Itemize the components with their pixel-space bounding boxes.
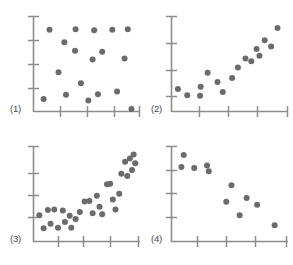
data-point [122,56,128,62]
data-point [72,48,78,54]
data-point [175,86,181,92]
data-point [51,207,57,213]
data-point [91,27,97,33]
data-point [254,202,260,208]
data-point [197,93,203,99]
data-point [235,65,241,71]
data-point [113,207,119,213]
data-point [99,49,105,55]
data-point [45,207,51,213]
scatter-panel-4: (4) [146,132,293,265]
data-point [94,193,100,199]
data-point [41,225,47,231]
data-point [110,196,116,202]
data-points-4 [178,152,277,228]
data-point [107,181,113,187]
data-point [184,92,190,98]
data-point [237,212,243,218]
data-point [256,53,262,59]
data-point [275,25,281,31]
data-points-3 [36,152,138,232]
data-point [124,173,130,179]
data-point [272,222,278,228]
axes-4 [166,146,288,247]
data-point [90,56,96,62]
scatter-panel-3: (3) [0,132,146,265]
data-point [62,219,68,225]
data-point [60,207,66,213]
data-point [131,152,137,158]
data-point [116,191,122,197]
data-point [55,225,61,231]
data-point [262,37,268,43]
data-point [61,39,67,45]
data-point [77,209,83,215]
axes-1 [28,16,140,117]
data-point [181,152,187,158]
scatter-plot-3-canvas [0,132,146,265]
data-point [67,213,73,219]
data-point [215,79,221,85]
data-point [229,75,235,81]
data-point [73,26,79,32]
data-point [268,44,274,50]
data-point [242,56,248,62]
data-point [114,88,120,94]
data-point [99,211,105,217]
scatter-plot-1-canvas [0,0,146,132]
scatterplot-figure: (1) (2) [0,0,293,265]
data-point [95,91,101,97]
data-point [90,210,96,216]
data-points-1 [41,26,135,112]
data-point [68,225,74,231]
data-point [206,168,212,174]
data-point [36,212,42,218]
panel-label-3: (3) [10,234,21,244]
panel-label-1: (1) [10,104,21,114]
data-point [254,46,260,52]
data-point [41,96,47,102]
data-point [191,165,197,171]
data-point [244,195,250,201]
data-point [46,27,52,33]
data-point [132,160,138,166]
data-point [86,198,92,204]
panel-label-4: (4) [151,234,162,244]
data-point [63,92,69,98]
scatter-plot-2-canvas [146,0,293,132]
axes-2 [166,16,288,117]
data-point [97,204,103,210]
data-point [178,164,184,170]
data-point [223,199,229,205]
data-point [229,182,235,188]
data-point [220,89,226,95]
data-points-2 [175,25,281,99]
data-point [248,58,254,64]
data-point [129,167,135,173]
scatter-panel-1: (1) [0,0,146,132]
data-point [204,163,210,169]
data-point [128,106,134,112]
data-point [118,171,124,177]
data-point [85,98,91,104]
scatter-plot-4-canvas [146,132,293,265]
data-point [48,221,54,227]
data-point [78,80,84,86]
data-point [73,216,79,222]
data-point [56,69,62,75]
panel-label-2: (2) [151,104,162,114]
data-point [198,84,204,90]
data-point [125,26,131,32]
data-point [109,27,115,33]
data-point [205,70,211,76]
scatter-panel-2: (2) [146,0,293,132]
